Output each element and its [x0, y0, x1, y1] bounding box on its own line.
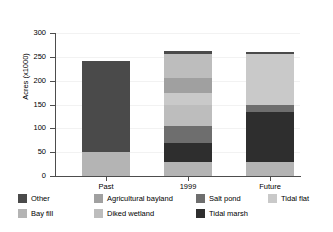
legend-swatch-icon [94, 194, 103, 203]
y-tick-label: 200 [12, 77, 46, 85]
y-tick-label: 300 [12, 29, 46, 37]
legend-label: Salt pond [209, 194, 241, 203]
legend-swatch-icon [196, 209, 205, 218]
bar-segment [246, 54, 294, 105]
bar-segment [246, 162, 294, 176]
bar-segment [246, 112, 294, 163]
legend-label: Other [31, 194, 50, 203]
legend-swatch-icon [18, 194, 27, 203]
legend-label: Tidal marsh [209, 209, 248, 218]
y-tick-label: 100 [12, 124, 46, 132]
bar-segment [82, 152, 130, 176]
plot-area [56, 33, 300, 176]
x-tick-label: Future [240, 183, 300, 191]
legend-swatch-icon [196, 194, 205, 203]
bar-segment [164, 54, 212, 78]
y-tick [50, 81, 55, 82]
y-tick-label: 0 [12, 172, 46, 180]
legend-row: Bay fillDiked wetlandTidal marsh [18, 207, 318, 221]
legend-item[interactable]: Salt pond [196, 192, 241, 205]
legend-swatch-icon [268, 194, 277, 203]
y-tick [50, 128, 55, 129]
bar-segment [246, 52, 294, 54]
bar-future [246, 33, 294, 176]
x-tick-label: Past [76, 183, 136, 191]
y-tick [50, 152, 55, 153]
legend-label: Bay fill [31, 209, 53, 218]
bar-segment [164, 126, 212, 143]
legend-row: OtherAgricultural baylandSalt pondTidal … [18, 192, 318, 206]
legend-item[interactable]: Agricultural bayland [94, 192, 173, 205]
y-tick-label: 250 [12, 53, 46, 61]
legend-label: Tidal flat [281, 194, 309, 203]
y-tick-label: 150 [12, 101, 46, 109]
x-tick [106, 176, 107, 181]
legend-label: Diked wetland [107, 209, 154, 218]
chart-legend: OtherAgricultural baylandSalt pondTidal … [18, 192, 318, 226]
bar-1999 [164, 33, 212, 176]
bar-segment [164, 143, 212, 162]
x-axis-line [55, 176, 301, 177]
y-tick [50, 33, 55, 34]
bar-past [82, 33, 130, 176]
legend-swatch-icon [94, 209, 103, 218]
legend-item[interactable]: Tidal flat [268, 192, 309, 205]
legend-item[interactable]: Diked wetland [94, 207, 154, 220]
legend-item[interactable]: Tidal marsh [196, 207, 248, 220]
x-tick [188, 176, 189, 181]
bar-segment [164, 105, 212, 127]
y-tick [50, 105, 55, 106]
legend-item[interactable]: Other [18, 192, 50, 205]
bar-segment [164, 78, 212, 92]
y-tick [50, 57, 55, 58]
legend-swatch-icon [18, 209, 27, 218]
bar-segment [164, 51, 212, 54]
legend-item[interactable]: Bay fill [18, 207, 53, 220]
y-tick [50, 176, 55, 177]
x-tick-label: 1999 [158, 183, 218, 191]
chart-figure: Acres (x1000) 050100150200250300 Past199… [0, 0, 333, 232]
y-tick-label: 50 [12, 148, 46, 156]
bar-segment [82, 61, 130, 153]
bar-segment [246, 105, 294, 111]
legend-label: Agricultural bayland [107, 194, 173, 203]
bar-segment [164, 162, 212, 176]
bar-segment [164, 93, 212, 105]
x-tick [270, 176, 271, 181]
